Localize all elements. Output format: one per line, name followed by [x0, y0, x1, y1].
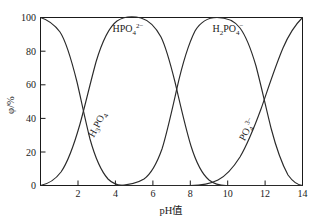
- x-tick-label-14: 14: [298, 188, 308, 199]
- y-tick-label-60: 60: [26, 79, 36, 90]
- curve-label-po4: PO43−: [236, 116, 260, 144]
- x-axis-ticks: [78, 181, 303, 186]
- chart-canvas: 0 20 40 60 80 100 φ/% 2 4 6 8 10 12 14 p…: [0, 0, 319, 223]
- curve-label-h2po4: H2PO4−: [213, 22, 244, 37]
- y-tick-label-0: 0: [31, 180, 36, 191]
- y-tick-label-40: 40: [26, 113, 36, 124]
- curve-po4: [190, 18, 302, 186]
- y-axis-title: φ/%: [5, 96, 16, 114]
- y-tick-label-80: 80: [26, 46, 36, 57]
- speciation-diagram-figure: 0 20 40 60 80 100 φ/% 2 4 6 8 10 12 14 p…: [0, 0, 319, 223]
- x-tick-label-4: 4: [113, 188, 118, 199]
- x-tick-label-6: 6: [150, 188, 155, 199]
- x-tick-label-10: 10: [223, 188, 233, 199]
- curve-h2po4: [115, 18, 302, 186]
- x-tick-label-12: 12: [260, 188, 270, 199]
- x-tick-label-2: 2: [76, 188, 81, 199]
- curve-label-hpo4: HPO42−: [113, 22, 144, 37]
- x-tick-label-8: 8: [188, 188, 193, 199]
- y-axis-ticks: [41, 18, 46, 186]
- x-axis-title: pH值: [160, 204, 184, 216]
- curve-label-h3po4: H3PO4: [86, 109, 111, 140]
- y-tick-label-20: 20: [26, 147, 36, 158]
- y-tick-label-100: 100: [21, 12, 36, 23]
